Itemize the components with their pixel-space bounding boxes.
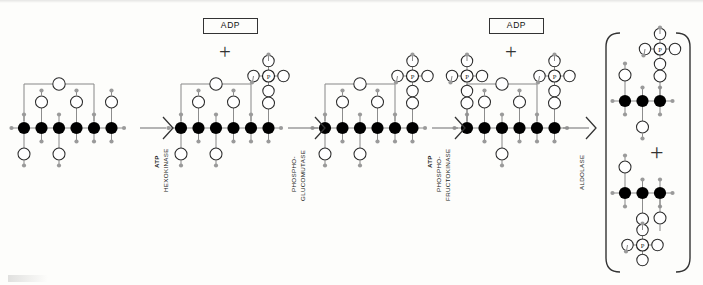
carbon-hydrogen-down <box>92 139 96 143</box>
hydroxyl-oxygen-up <box>619 161 631 173</box>
phosphoester-oxygen-right <box>407 97 419 109</box>
hydroxyl-hydrogen-up <box>623 153 627 157</box>
carbon-atom <box>654 187 666 199</box>
phosphate-oxygen-down <box>549 85 560 96</box>
carbon-atom <box>354 122 366 134</box>
phosphate-hydrogen-left <box>624 249 628 253</box>
phosphate-hydrogen-up <box>465 52 469 56</box>
carbon-atom <box>105 122 117 134</box>
phosphate-hydrogen-left <box>250 80 254 84</box>
carbon-hydrogen-down <box>266 139 270 143</box>
carbon-hydrogen-up <box>500 112 504 116</box>
hydroxyl-oxygen-down <box>18 148 30 160</box>
hydroxyl-hydrogen-up <box>74 88 78 92</box>
phosphate-oxygen-right <box>652 239 663 250</box>
terminal-hydrogen-right <box>279 126 283 130</box>
phosphate-oxygen-right <box>476 70 487 81</box>
arrow2-enzyme-label-line1: PHOSPHO- <box>290 156 297 192</box>
terminal-hydrogen-left <box>610 99 614 103</box>
carbon-atom <box>175 122 187 134</box>
hydroxyl-oxygen-up <box>36 96 48 108</box>
carbon-atom <box>35 122 47 134</box>
hydroxyl-oxygen-up <box>71 96 83 108</box>
carbon-atom <box>245 122 257 134</box>
phosphoester-oxygen-left <box>461 97 473 109</box>
carbon-hydrogen-down <box>109 139 113 143</box>
ring-bridge-oxygen <box>210 78 222 90</box>
hydroxyl-oxygen-up <box>337 96 349 108</box>
phosphate-oxygen-down <box>263 85 274 96</box>
terminal-hydrogen-left <box>166 126 170 130</box>
carbon-hydrogen-down <box>231 139 235 143</box>
arrow3-enzyme-label-line1: PHOSPHO- <box>435 156 442 192</box>
ring-bridge-oxygen <box>496 78 508 90</box>
carbon-hydrogen-up <box>535 112 539 116</box>
hydroxyl-oxygen-up <box>372 96 384 108</box>
carbon-atom <box>478 122 490 134</box>
carbon-atom <box>88 122 100 134</box>
carbon-hydrogen-down <box>410 139 414 143</box>
phosphate-oxygen-right <box>669 43 680 54</box>
hydroxyl-oxygen-down <box>210 148 222 160</box>
phosphate-hydrogen-left <box>448 80 452 84</box>
phosphate-hydrogen-up <box>410 52 414 56</box>
carbon-hydrogen-down <box>517 139 521 143</box>
terminal-hydrogen-right <box>670 191 674 195</box>
plus-sign-adp-2: + <box>505 42 517 63</box>
carbon-atom <box>18 122 30 134</box>
arrow3-enzyme-label-line2: FRUCTOKINASE <box>444 148 451 201</box>
carbon-atom <box>636 187 648 199</box>
phosphate-hydrogen-left <box>394 80 398 84</box>
hydroxyl-oxygen-up <box>479 96 491 108</box>
carbon-atom <box>496 122 508 134</box>
carbon-hydrogen-up <box>57 112 61 116</box>
hydroxyl-hydrogen-down <box>57 163 61 167</box>
carbon-atom <box>210 122 222 134</box>
product-bracket <box>606 33 690 272</box>
carbon-hydrogen-down <box>623 204 627 208</box>
bracket-right <box>676 33 690 272</box>
carbon-atom <box>461 122 473 134</box>
phosphorus-label: P <box>267 73 271 80</box>
glycolysis-diagram-canvas: PPPPPP <box>0 0 703 285</box>
glycolysis-vector-layer: PPPPPP <box>0 0 703 285</box>
phosphorus-label: P <box>658 46 662 53</box>
terminal-hydrogen-left <box>9 126 13 130</box>
arrow3-substrate-label: ATP <box>426 155 433 168</box>
adp-box-2: ADP <box>489 18 544 34</box>
arrow2-enzyme-label-line2: GLUCOMUTASE <box>299 150 306 201</box>
hydroxyl-hydrogen-down <box>500 163 504 167</box>
phosphate-oxygen-down <box>407 85 418 96</box>
phosphoester-oxygen <box>654 212 666 224</box>
hydroxyl-hydrogen-down <box>22 163 26 167</box>
phosphate-hydrogen-up <box>266 52 270 56</box>
mol-fructose-1-6-bisphosphate: PP <box>446 52 575 167</box>
carbon-hydrogen-up <box>214 112 218 116</box>
carbon-hydrogen-up <box>22 112 26 116</box>
phosphoester-oxygen <box>654 70 666 82</box>
phosphorus-label: P <box>411 73 415 80</box>
phosphorus-label: P <box>553 73 557 80</box>
hydroxyl-oxygen-down <box>175 148 187 160</box>
carbon-hydrogen-down <box>39 139 43 143</box>
carbon-atom <box>336 122 348 134</box>
hydroxyl-hydrogen-down <box>358 163 362 167</box>
carbon-atom <box>513 122 525 134</box>
carbon-hydrogen-up <box>640 177 644 181</box>
carbon-hydrogen-down <box>623 112 627 116</box>
hydroxyl-oxygen-up <box>514 96 526 108</box>
hydroxyl-oxygen-down <box>319 148 331 160</box>
carbon-atom <box>654 95 666 107</box>
phosphorus-label: P <box>641 242 645 249</box>
mol-fructose-6-phosphate: P <box>310 52 433 167</box>
phosphate-oxygen-right <box>564 70 575 81</box>
arrow1-substrate-label: ATP <box>153 155 160 168</box>
adp-box-1: ADP <box>203 18 258 34</box>
phosphorus-label: P <box>465 73 469 80</box>
arrow-aldolase <box>563 117 596 139</box>
carbon-atom <box>619 187 631 199</box>
hydroxyl-hydrogen-up <box>517 88 521 92</box>
carbon-atom <box>636 95 648 107</box>
carbon-hydrogen-up <box>358 112 362 116</box>
carbon-hydrogen-down <box>658 112 662 116</box>
